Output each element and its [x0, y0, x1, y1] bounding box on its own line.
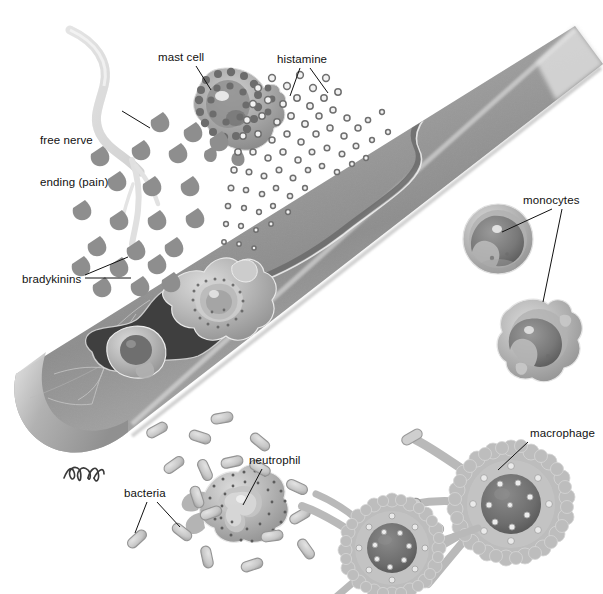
leader-line-histamine-0: [290, 68, 300, 96]
artist-signature: [64, 468, 104, 481]
label-bradykinins: bradykinins: [22, 273, 81, 286]
leader-line-bacteria-0: [135, 502, 147, 533]
label-macrophage: macrophage: [530, 427, 595, 440]
label-histamine: histamine: [277, 53, 327, 66]
label-monocytes: monocytes: [523, 194, 580, 207]
label-free-nerve-ending: free nerve ending (pain): [40, 105, 108, 217]
monocyte-ruffled: [497, 299, 582, 382]
inflammation-illustration: [0, 0, 603, 594]
monocyte-round: [463, 204, 533, 274]
leader-line-bacteria-1: [157, 502, 180, 527]
illustration-canvas: free nerve ending (pain) mast cell hista…: [0, 0, 603, 594]
label-free-nerve-ending-line1: free nerve: [40, 133, 108, 147]
label-bacteria: bacteria: [124, 487, 166, 500]
label-mast-cell: mast cell: [158, 51, 204, 64]
migrating-cell-b: [107, 326, 166, 378]
label-free-nerve-ending-line2: ending (pain): [40, 175, 108, 189]
macrophage-left-body: [338, 493, 446, 594]
leader-line-free-nerve-ending-0: [122, 111, 150, 128]
leader-line-monocytes-1: [543, 209, 562, 302]
label-neutrophil: neutrophil: [249, 454, 301, 467]
